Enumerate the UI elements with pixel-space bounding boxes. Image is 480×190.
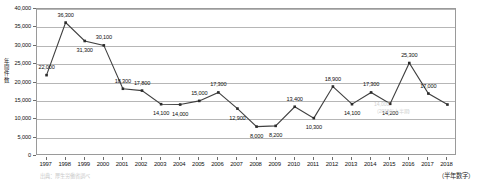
data-point-marker bbox=[179, 103, 182, 106]
data-point-marker bbox=[274, 125, 277, 128]
x-tick-label: 2003 bbox=[154, 161, 166, 167]
data-point-marker bbox=[83, 40, 86, 43]
annotation-note: 14,000 （2018年上半期） bbox=[374, 101, 432, 114]
x-tick-mark bbox=[103, 157, 104, 160]
data-point-marker bbox=[122, 87, 125, 90]
x-tick-mark bbox=[351, 157, 352, 160]
x-tick-label: 2000 bbox=[97, 161, 109, 167]
x-tick-mark bbox=[370, 157, 371, 160]
data-point-label: 36,300 bbox=[58, 12, 74, 18]
x-tick-mark bbox=[275, 157, 276, 160]
x-tick-mark bbox=[446, 157, 447, 160]
x-tick-mark bbox=[122, 157, 123, 160]
y-axis: 05,00010,00015,00020,00025,00030,00035,0… bbox=[0, 0, 36, 190]
x-tick-mark bbox=[389, 157, 390, 160]
data-point-marker bbox=[217, 91, 220, 94]
x-tick-label: 2006 bbox=[211, 161, 223, 167]
gridline bbox=[37, 64, 455, 65]
x-tick-mark bbox=[198, 157, 199, 160]
data-point-marker bbox=[255, 125, 258, 128]
x-tick-label: 2010 bbox=[288, 161, 300, 167]
plot-area: 22,00036,30031,30030,10018,30017,80014,1… bbox=[36, 8, 456, 155]
x-tick-mark bbox=[236, 157, 237, 160]
x-tick-label: 2013 bbox=[345, 161, 357, 167]
data-point-marker bbox=[45, 74, 48, 77]
y-tick-label: 0 bbox=[28, 152, 31, 158]
y-tick-label: 30,000 bbox=[14, 42, 31, 48]
gridline bbox=[37, 9, 455, 10]
x-tick-label: 2012 bbox=[326, 161, 338, 167]
x-tick-label: 2011 bbox=[307, 161, 319, 167]
source-note: 出典：厚生労働省調べ bbox=[40, 172, 90, 179]
data-point-marker bbox=[160, 103, 163, 106]
x-tick-mark bbox=[65, 157, 66, 160]
data-layer: 22,00036,30031,30030,10018,30017,80014,1… bbox=[37, 9, 455, 154]
x-tick-mark bbox=[141, 157, 142, 160]
x-tick-label: 1999 bbox=[78, 161, 90, 167]
x-tick-mark bbox=[217, 157, 218, 160]
y-tick-label: 5,000 bbox=[18, 134, 32, 140]
data-point-marker bbox=[236, 107, 239, 110]
data-point-label: 18,900 bbox=[325, 76, 341, 82]
y-tick-label: 35,000 bbox=[14, 23, 31, 29]
data-point-label: 14,100 bbox=[153, 110, 169, 116]
y-tick-label: 10,000 bbox=[14, 115, 31, 121]
y-tick-label: 20,000 bbox=[14, 79, 31, 85]
x-tick-mark bbox=[179, 157, 180, 160]
data-point-marker bbox=[293, 105, 296, 108]
y-tick-mark bbox=[33, 155, 36, 156]
x-tick-label: 2002 bbox=[135, 161, 147, 167]
x-tick-label: 2016 bbox=[402, 161, 414, 167]
y-tick-label: 15,000 bbox=[14, 97, 31, 103]
x-tick-label: 2001 bbox=[116, 161, 128, 167]
x-tick-label: 1997 bbox=[39, 161, 51, 167]
x-tick-mark bbox=[294, 157, 295, 160]
data-point-label: 10,300 bbox=[306, 124, 322, 130]
gridline bbox=[37, 119, 455, 120]
x-tick-mark bbox=[332, 157, 333, 160]
x-tick-label: 2017 bbox=[421, 161, 433, 167]
data-point-label: 15,000 bbox=[191, 90, 207, 96]
x-tick-label: 2015 bbox=[383, 161, 395, 167]
data-point-label: 30,100 bbox=[96, 34, 112, 40]
x-tick-mark bbox=[313, 157, 314, 160]
data-point-label: 31,300 bbox=[77, 47, 93, 53]
data-point-marker bbox=[64, 21, 67, 24]
x-tick-mark bbox=[160, 157, 161, 160]
data-point-marker bbox=[332, 85, 335, 88]
x-tick-mark bbox=[408, 157, 409, 160]
data-point-marker bbox=[351, 103, 354, 106]
x-tick-label: 1998 bbox=[58, 161, 70, 167]
data-point-label: 25,300 bbox=[401, 52, 417, 58]
footnote: （半年数字） bbox=[438, 171, 474, 180]
gridline bbox=[37, 138, 455, 139]
x-tick-label: 2014 bbox=[364, 161, 376, 167]
data-point-marker bbox=[427, 92, 430, 95]
x-tick-label: 2008 bbox=[249, 161, 261, 167]
data-point-label: 14,100 bbox=[344, 110, 360, 116]
data-point-label: 14,000 bbox=[172, 111, 188, 117]
annotation-caption: （2018年上半期） bbox=[374, 108, 432, 115]
y-tick-label: 40,000 bbox=[14, 5, 31, 11]
y-tick-label: 25,000 bbox=[14, 60, 31, 66]
x-tick-mark bbox=[427, 157, 428, 160]
x-tick-label: 2009 bbox=[268, 161, 280, 167]
x-tick-mark bbox=[84, 157, 85, 160]
x-tick-label: 2004 bbox=[173, 161, 185, 167]
gridline bbox=[37, 46, 455, 47]
data-point-marker bbox=[446, 103, 449, 106]
gridline bbox=[37, 83, 455, 84]
x-axis: 1997199819992000200120022003200420052006… bbox=[36, 157, 456, 171]
gridline bbox=[37, 27, 455, 28]
x-tick-label: 2018 bbox=[440, 161, 452, 167]
chart-container: 年間件数 05,00010,00015,00020,00025,00030,00… bbox=[0, 0, 480, 190]
data-point-marker bbox=[141, 89, 144, 92]
x-tick-mark bbox=[46, 157, 47, 160]
x-tick-label: 2005 bbox=[192, 161, 204, 167]
x-tick-mark bbox=[256, 157, 257, 160]
data-point-marker bbox=[370, 91, 373, 94]
x-tick-label: 2007 bbox=[230, 161, 242, 167]
